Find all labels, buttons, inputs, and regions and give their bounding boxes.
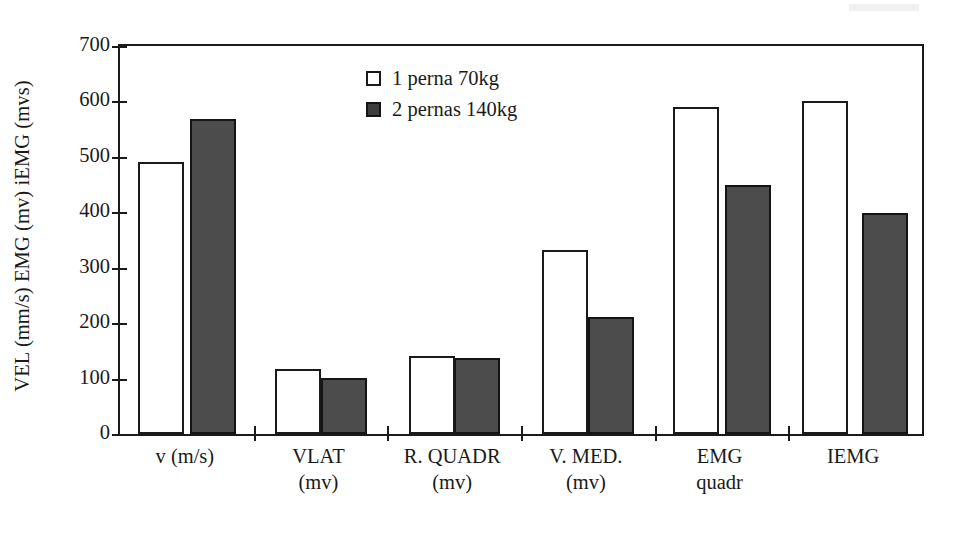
x-axis-tick-mark [788,426,790,441]
y-axis-tick-label: 0 [100,422,110,443]
legend-label: 2 pernas 140kg [392,99,517,120]
bar-series1 [542,250,588,434]
x-axis-category-label-line1: V. MED. [519,444,653,470]
x-axis-category-label: R. QUADR(mv) [385,444,519,495]
x-axis-category-label: IEMG [786,444,920,470]
y-axis-tick-mark [112,46,127,48]
x-axis-category-labels: v (m/s)VLAT(mv)R. QUADR(mv)V. MED.(mv)EM… [118,444,920,524]
y-axis-title: VEL (mm/s) EMG (mv) iEMG (mvs) [11,80,34,391]
x-axis-tick-mark [387,426,389,441]
bar-series1 [138,162,184,434]
y-axis-tick-label: 300 [79,255,110,276]
y-axis-tick-label: 600 [79,89,110,110]
x-axis-category-label-line1: VLAT [252,444,386,470]
y-axis-tick-mark [112,434,127,436]
bar-series2 [588,317,634,434]
y-axis-tick-mark [112,268,127,270]
bar-series1 [275,369,321,434]
x-axis-category-label-line2: quadr [653,470,787,496]
chart-legend: 1 perna 70kg2 pernas 140kg [366,63,626,125]
legend-item: 2 pernas 140kg [366,94,626,125]
legend-swatch-icon [366,71,381,86]
x-axis-category-label-line2: (mv) [385,470,519,496]
y-axis-tick-label: 500 [79,145,110,166]
x-axis-category-label: V. MED.(mv) [519,444,653,495]
x-axis-category-label: VLAT(mv) [252,444,386,495]
y-axis-tick-mark [112,101,127,103]
y-axis-tick-mark [112,157,127,159]
y-axis-tick-label: 200 [79,311,110,332]
x-axis-tick-mark [521,426,523,441]
x-axis-category-label-line1: EMG [653,444,787,470]
y-axis-tick-mark [112,379,127,381]
x-axis-tick-mark [254,426,256,441]
x-axis-category-label-line2: (mv) [252,470,386,496]
x-axis-category-label: v (m/s) [118,444,252,470]
bar-series2 [725,185,771,434]
y-axis-tick-label: 400 [79,200,110,221]
legend-label: 1 perna 70kg [392,68,499,89]
bar-series2 [862,213,908,434]
legend-swatch-icon [366,102,381,117]
x-axis-category-label-line1: v (m/s) [118,444,252,470]
legend-item: 1 perna 70kg [366,63,626,94]
y-axis-tick-mark [112,212,127,214]
x-axis-category-label: EMGquadr [653,444,787,495]
y-axis-tick-label: 700 [79,34,110,55]
x-axis-tick-mark [655,426,657,441]
y-axis-tick-labels: 0100200300400500600700 [52,0,110,534]
y-axis-tick-mark [112,323,127,325]
bar-chart-figure: VEL (mm/s) EMG (mv) iEMG (mvs) 010020030… [0,0,961,534]
bar-series2 [190,119,236,434]
y-axis-title-container: VEL (mm/s) EMG (mv) iEMG (mvs) [0,36,44,436]
bar-series1 [409,356,455,434]
bar-series2 [454,358,500,434]
scan-artifact [849,4,919,11]
x-axis-category-label-line2: (mv) [519,470,653,496]
bar-series2 [321,378,367,434]
x-axis-category-label-line1: IEMG [786,444,920,470]
bar-series1 [802,101,848,434]
x-axis-category-label-line1: R. QUADR [385,444,519,470]
y-axis-tick-label: 100 [79,366,110,387]
bar-series1 [673,107,719,434]
